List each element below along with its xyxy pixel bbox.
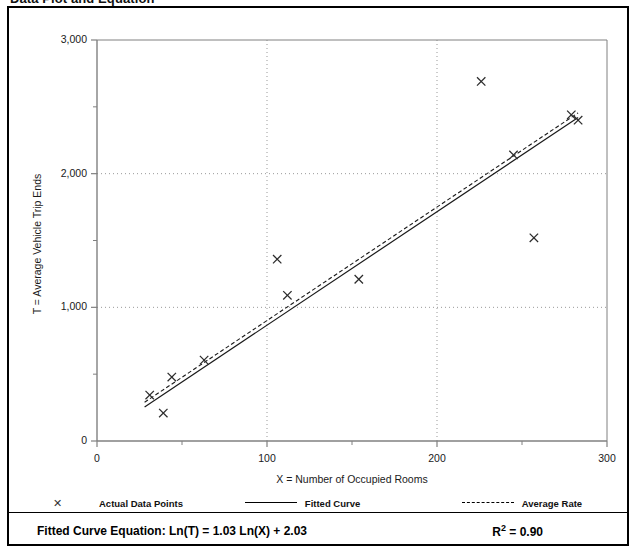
y-axis-tick-label: 1,000 [35, 300, 87, 312]
y-axis-tick-label: 0 [35, 434, 87, 446]
legend-label: Average Rate [522, 498, 582, 509]
r-squared-value: R2 = 0.90 [492, 523, 627, 539]
x-axis-tick-label: 100 [241, 452, 293, 464]
legend-item-actual-data-points: ✕ Actual Data Points [9, 497, 198, 509]
r-squared-exponent: 2 [501, 523, 506, 533]
legend-item-fitted-curve: Fitted Curve [198, 497, 412, 509]
legend-label: Actual Data Points [99, 498, 183, 509]
r-squared-symbol: R [492, 525, 501, 539]
x-axis-tick-label: 300 [581, 452, 633, 464]
chart-frame [7, 6, 629, 546]
x-marker-icon: ✕ [37, 497, 93, 509]
r-squared-number: = 0.90 [509, 525, 543, 539]
dashed-line-icon [460, 497, 516, 509]
y-axis-tick-label: 3,000 [35, 33, 87, 45]
x-axis-tick-label: 0 [71, 452, 123, 464]
legend-label: Fitted Curve [305, 498, 360, 509]
x-axis-title: X = Number of Occupied Rooms [97, 473, 607, 485]
equation-row: Fitted Curve Equation: Ln(T) = 1.03 Ln(X… [9, 518, 627, 544]
legend-item-average-rate: Average Rate [412, 497, 627, 509]
fitted-curve-equation: Fitted Curve Equation: Ln(T) = 1.03 Ln(X… [9, 524, 307, 538]
x-axis-tick-label: 200 [411, 452, 463, 464]
solid-line-icon [243, 497, 299, 509]
legend-divider [9, 512, 627, 513]
y-axis-tick-label: 2,000 [35, 167, 87, 179]
